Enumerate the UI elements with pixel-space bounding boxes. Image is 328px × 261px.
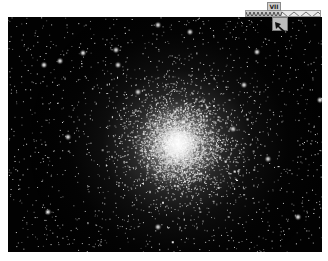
- pointer-tool-button[interactable]: [272, 17, 288, 31]
- cursor-arrow-icon: [273, 21, 287, 33]
- scale-ruler: [245, 10, 321, 17]
- scale-label: VII: [267, 2, 281, 11]
- cluster-core-glow: [8, 17, 322, 252]
- star-cluster-photo: [8, 17, 322, 252]
